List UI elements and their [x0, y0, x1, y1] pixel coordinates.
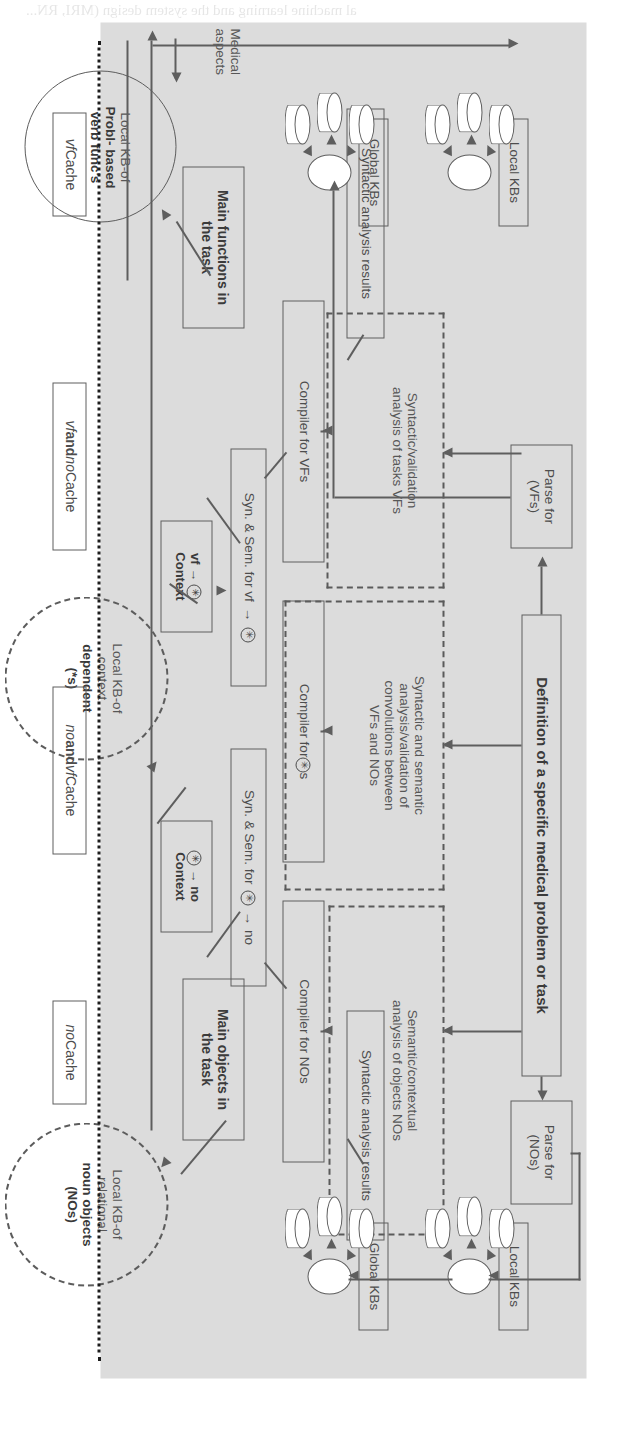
nos-circle-light2: relational [94, 1134, 109, 1274]
sva-line1: Syntactic/validation [404, 322, 419, 578]
kb-arrow [466, 134, 476, 144]
vfno-italic2: no [61, 456, 77, 472]
connector [444, 452, 521, 454]
compiler-star-post: s [295, 772, 310, 779]
ctx-circle-light2: context [94, 608, 109, 748]
no-cache-box: no Cache [52, 1000, 86, 1104]
connector-arrow [322, 1025, 332, 1035]
syntactic-validation-analysis-label: Syntactic/validation analysis of tasks V… [389, 322, 419, 578]
connector-arrow [348, 1270, 358, 1280]
kb-cylinder [284, 1208, 310, 1248]
local-kb-noun-objects-label: Local KB-of relational noun objects (NOs… [64, 1134, 124, 1274]
sva-line2: analysis of tasks VFs [389, 322, 404, 578]
connector [348, 1278, 452, 1280]
vf-circle-light1: Local KB-of [117, 80, 132, 214]
novf-italic2: vf [61, 765, 77, 776]
medical-line1: Medical [227, 28, 242, 128]
syn-sem-vf-to-star-box: Syn. & Sem. for vf → ✳ [230, 448, 266, 686]
convolutions-analysis-label: Syntactic and semantic analysis/validati… [366, 612, 426, 878]
bus-line [152, 44, 510, 46]
main-functions-line1: Main functions in [213, 189, 229, 304]
main-objects-line1: Main objects in [213, 1008, 229, 1109]
definition-box: Definition of a specific medical problem… [521, 614, 561, 1076]
connector-arrow [442, 739, 452, 749]
cache-boundary-dotted-line [97, 40, 100, 1360]
novf-rest: Cache [61, 775, 77, 815]
kb-cylinder [488, 1208, 514, 1248]
kb-hub [447, 154, 491, 190]
kb-cylinder [316, 1196, 342, 1236]
compiler-for-nos-box: Compiler for NOs [282, 900, 324, 1162]
connector-arrow [488, 1270, 498, 1280]
kb-hub [307, 1258, 351, 1294]
parse-nos-line1: Parse for [541, 1125, 556, 1180]
connector-arrow [442, 447, 452, 457]
bus-line [126, 40, 128, 280]
kb-cylinder [348, 104, 374, 144]
bus-line [150, 40, 152, 1130]
star-icon: ✳ [241, 627, 256, 642]
parse-vfs-line1: Parse for [541, 469, 556, 524]
star-icon: ✳ [296, 757, 311, 772]
star-icon: ✳ [241, 890, 256, 905]
parse-for-vfs-box: Parse for (VFs) [510, 444, 572, 548]
kb-hub [447, 1258, 491, 1294]
connector-arrow [322, 425, 332, 435]
kb-cylinder [424, 1208, 450, 1248]
kb-cylinder [456, 1196, 482, 1236]
connector [334, 496, 510, 498]
connector-arrow [537, 556, 547, 566]
conv-line2: analysis/validation of [396, 612, 411, 878]
kb-cylinder [348, 1208, 374, 1248]
kb-cylinder [488, 104, 514, 144]
connector-arrow [329, 180, 339, 190]
syn-sem-star-to-no-box: Syn. & Sem. for ✳ → no [230, 748, 266, 986]
figure-canvas: Definition of a specific medical problem… [0, 0, 624, 1449]
vf-cache-italic: vf [61, 138, 77, 149]
compiler-for-stars-box: Compiler for ✳ s [282, 600, 324, 862]
parse-for-nos-box: Parse for (NOs) [510, 1100, 572, 1204]
kb-cylinder [284, 104, 310, 144]
connector [444, 744, 521, 746]
ctx-vf-text: vf → [187, 553, 202, 581]
ctx-no-line1: ✳ → no [186, 850, 201, 901]
conv-line4: VFs and NOs [366, 612, 381, 878]
main-objects-box: Main objects in the task [182, 978, 244, 1140]
novf-italic1: no [61, 724, 77, 740]
connector-arrow [537, 1090, 547, 1100]
main-objects-line2: the task [197, 1033, 213, 1086]
synsem-no-label: Syn. & Sem. for [240, 789, 255, 884]
synsem-vf-arrow: → [240, 607, 255, 621]
vfno-italic1: vf [61, 420, 77, 431]
rotated-diagram: Definition of a specific medical problem… [0, 0, 624, 1449]
synsem-no-target: no [240, 930, 255, 945]
connector [578, 1152, 580, 1280]
connector-arrow [322, 725, 332, 735]
vf-to-star-context-box: vf → ✳ Context [160, 520, 212, 632]
medical-aspects-label: Medical aspects [212, 28, 242, 128]
star-to-no-context-box: ✳ → no Context [160, 820, 212, 932]
kb-arrow [326, 1238, 336, 1248]
bus-arrow [147, 30, 157, 40]
connector [540, 566, 542, 614]
ctx-no-text: → no [187, 869, 202, 902]
kb-cylinder [456, 92, 482, 132]
parse-vfs-line2: (VFs) [526, 480, 541, 513]
vf-cache-rest: Cache [61, 149, 77, 189]
no-and-vf-cache-box: no and vf Cache [52, 686, 86, 854]
connector [488, 1278, 580, 1280]
vf-cache-box: vf Cache [52, 112, 86, 216]
ctx-circle-light1: Local KB-of [109, 608, 124, 748]
connector [444, 1030, 521, 1032]
kb-arrow [326, 134, 336, 144]
synsem-no-arrow: → [240, 911, 255, 925]
conv-line1: Syntactic and semantic [411, 612, 426, 878]
compiler-star-pre: Compiler for [295, 683, 310, 757]
sca-line1: Semantic/contextual [404, 925, 419, 1215]
syntactic-analysis-results-nos-box: Syntactic analysis results [346, 1010, 384, 1240]
vfno-and: and [61, 431, 77, 456]
nos-circle-light1: Local KB-of [109, 1134, 124, 1274]
nos-circle-bold1: noun objects [79, 1134, 94, 1274]
nos-circle-bold2: (NOs) [64, 1134, 79, 1274]
star-icon: ✳ [186, 850, 201, 865]
